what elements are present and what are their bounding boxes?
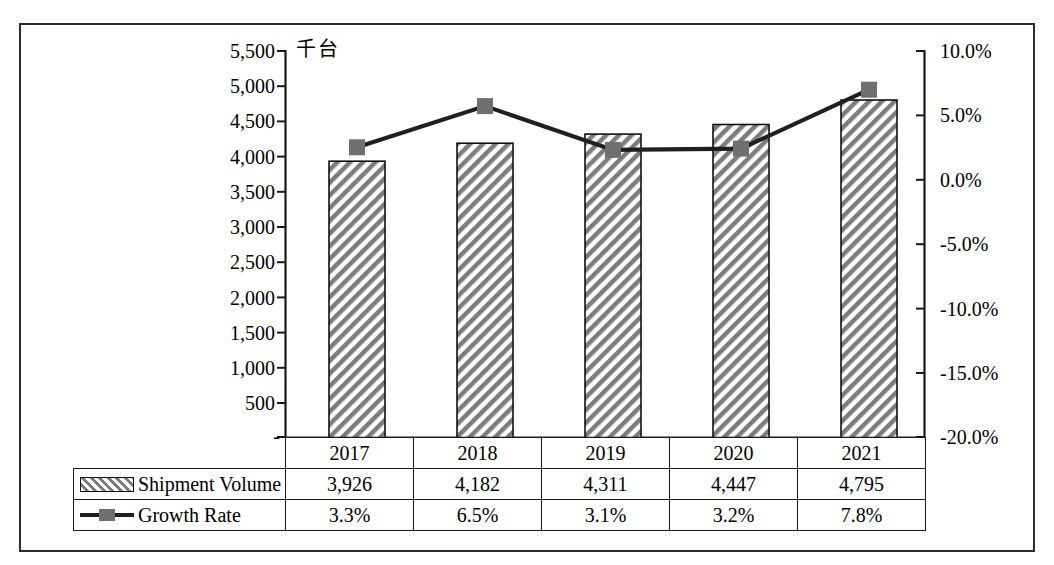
bar-2019 — [585, 134, 641, 437]
cell-shipment-2017: 3,926 — [286, 469, 414, 500]
legend-growth-rate: Growth Rate — [74, 500, 286, 531]
y-axis-tick-3500: 3,500 — [185, 182, 275, 202]
legend-label-growth-rate: Growth Rate — [138, 504, 241, 526]
legend-shipment-volume: Shipment Volume — [74, 469, 286, 500]
cell-growth-2020: 3.2% — [670, 500, 798, 531]
cell-shipment-2019: 4,311 — [542, 469, 670, 500]
y2-axis-tick-5: 5.0% — [940, 105, 1050, 125]
y2-axis-tick-neg20: -20.0% — [940, 427, 1050, 447]
y-axis-tick-500: 500 — [185, 393, 275, 413]
table-header-2018: 2018 — [414, 438, 542, 469]
left-value-axis — [277, 50, 286, 438]
cell-shipment-2021: 4,795 — [798, 469, 926, 500]
marker-2020 — [733, 141, 749, 157]
marker-2021 — [861, 82, 877, 98]
cell-growth-2019: 3.1% — [542, 500, 670, 531]
y-axis-tick-1000: 1,000 — [185, 358, 275, 378]
bar-2018 — [457, 143, 513, 437]
y-axis-tick-4000: 4,000 — [185, 147, 275, 167]
y2-axis-tick-10: 10.0% — [940, 41, 1050, 61]
y2-axis-tick-neg15: -15.0% — [940, 363, 1050, 383]
table-row-years: 2017 2018 2019 2020 2021 — [74, 438, 926, 469]
table-header-2017: 2017 — [286, 438, 414, 469]
table-header-2020: 2020 — [670, 438, 798, 469]
y-axis-tick-1500: 1,500 — [185, 323, 275, 343]
cell-growth-2021: 7.8% — [798, 500, 926, 531]
y-axis-tick-4500: 4,500 — [185, 111, 275, 131]
table-row: Growth Rate 3.3% 6.5% 3.1% 3.2% 7.8% — [74, 500, 926, 531]
table-row: Shipment Volume 3,926 4,182 4,311 4,447 … — [74, 469, 926, 500]
bar-2017 — [329, 161, 385, 437]
cell-growth-2018: 6.5% — [414, 500, 542, 531]
cell-shipment-2018: 4,182 — [414, 469, 542, 500]
marker-2019 — [605, 142, 621, 158]
unit-label: 千台 — [296, 38, 340, 60]
table-corner-spacer — [74, 438, 286, 469]
legend-label-shipment-volume: Shipment Volume — [138, 473, 281, 495]
marker-2018 — [477, 98, 493, 114]
marker-2017 — [349, 139, 365, 155]
y-axis-tick-3000: 3,000 — [185, 217, 275, 237]
y-axis-tick-2000: 2,000 — [185, 288, 275, 308]
bar-2020 — [713, 125, 769, 438]
bar-2021 — [841, 100, 897, 438]
y2-axis-tick-neg5: -5.0% — [940, 234, 1050, 254]
y-axis-tick-5500: 5,500 — [185, 41, 275, 61]
table-header-2019: 2019 — [542, 438, 670, 469]
chart-data-table: 2017 2018 2019 2020 2021 Shipment Volume… — [73, 437, 926, 531]
cell-growth-2017: 3.3% — [286, 500, 414, 531]
y2-axis-tick-0: 0.0% — [940, 170, 1050, 190]
y-axis-tick-5000: 5,000 — [185, 76, 275, 96]
table-header-2021: 2021 — [798, 438, 926, 469]
cell-shipment-2020: 4,447 — [670, 469, 798, 500]
y2-axis-tick-neg10: -10.0% — [940, 299, 1050, 319]
y-axis-tick-2500: 2,500 — [185, 252, 275, 272]
line-marker-icon — [80, 507, 134, 523]
hatched-bar-icon — [80, 477, 134, 492]
